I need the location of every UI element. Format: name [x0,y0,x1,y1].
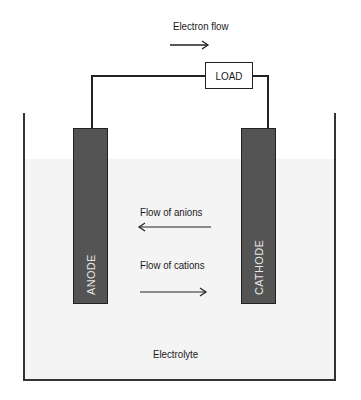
wire-cathode-vertical [267,75,269,129]
wire-anode-horizontal [91,75,205,77]
wire-cathode-horizontal [253,75,268,77]
electrolyte-label: Electrolyte [153,348,198,361]
load-label: LOAD [216,70,243,82]
anode-label: ANODE [85,254,97,295]
anion-flow-label: Flow of anions [140,206,202,219]
anode-electrode: ANODE [73,128,108,304]
cation-flow-label: Flow of cations [140,259,205,272]
electron-flow-arrow-icon [170,39,240,51]
cation-flow-arrow-icon [140,286,220,298]
anion-flow-arrow-icon [136,221,216,233]
load-box: LOAD [205,62,253,89]
cathode-electrode: CATHODE [241,128,276,304]
wire-anode-vertical [91,75,93,129]
electron-flow-label: Electron flow [173,20,228,33]
cathode-label: CATHODE [253,240,265,295]
electrolyte-tank [23,113,336,381]
